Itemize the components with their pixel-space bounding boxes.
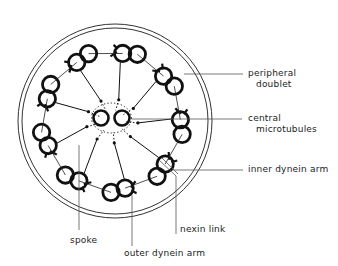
spoke-dotted [122,129,130,137]
inner-dynein-arm [169,152,170,160]
axoneme-diagram: peripheral doublet central microtubules … [0,0,338,266]
label-spoke: spoke [70,235,97,246]
spoke [57,127,87,144]
peripheral-doublet [152,64,182,95]
label-central-microtubules: central microtubules [248,113,317,135]
nexin-link [51,62,77,84]
peripheral-doublet [57,167,91,192]
spoke [84,139,97,173]
peripheral-doublet [149,152,177,185]
outer-dynein-arm [64,62,70,63]
spoke [55,103,88,112]
spoke [133,81,156,108]
peripheral-doublet [172,108,190,142]
spoke [81,71,101,101]
label-doublet: doublet [248,79,296,90]
spoke-dotted [97,130,104,139]
spoke [114,143,124,179]
outer-dynein-arm [114,45,118,49]
spoke [119,62,121,100]
peripheral-doublet [37,76,59,111]
spoke-dotted [116,100,119,111]
inner-dynein-arm [152,71,160,72]
spoke [138,119,172,123]
radial-spokes [55,62,171,179]
nexin-link [48,146,65,175]
label-peripheral-doublet: peripheral doublet [248,68,296,90]
spoke [130,137,158,158]
peripheral-doublet [33,124,56,158]
peripheral-doublets [33,45,190,201]
label-nexin-link: nexin link [180,224,225,235]
central-sheath [92,103,132,133]
spoke-dotted [113,132,114,143]
nexin-link [137,54,163,76]
label-peripheral: peripheral [248,68,296,79]
outer-dynein-arm [172,160,178,161]
label-outer-dynein-arm: outer dynein arm [124,248,205,259]
label-inner-dynein-arm: inner dynein arm [248,164,328,175]
peripheral-doublet [103,180,137,201]
central-microtubule-left [94,111,109,126]
label-microtubules: microtubules [248,124,317,135]
label-central: central [248,113,317,124]
outer-dynein-arm [45,152,47,158]
